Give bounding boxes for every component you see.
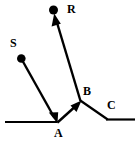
label-source-s: S (10, 37, 17, 49)
incident-ray-s-to-a (22, 59, 55, 117)
reflected-point-dot (49, 6, 58, 15)
label-point-c: C (107, 99, 116, 111)
label-reflected-r: R (67, 3, 76, 15)
ray-diagram-figure: S R A B C (0, 0, 140, 142)
mirror-surface-right (81, 101, 107, 119)
reflected-ray-b-to-r (57, 21, 81, 101)
ray-diagram-canvas (0, 0, 140, 142)
source-point-dot (17, 54, 26, 63)
label-point-b: B (83, 85, 91, 97)
label-point-a: A (54, 127, 63, 139)
reflected-ray-arrowhead (52, 14, 61, 27)
